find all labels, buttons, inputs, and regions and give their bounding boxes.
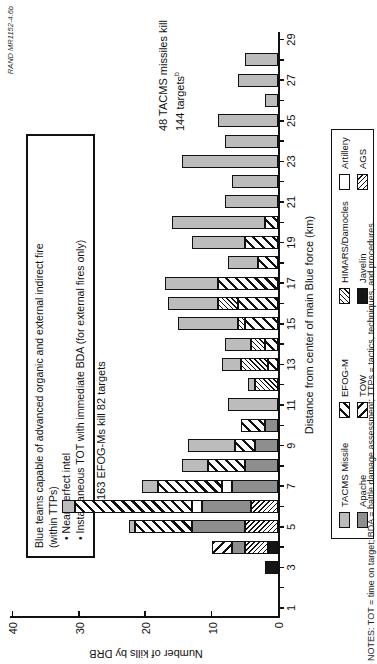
x-tick [280,242,284,244]
x-tick-label: 9 [285,435,297,457]
x-tick-label: 3 [285,556,297,578]
bar-segment-ags [245,541,268,554]
bar-segment-apache [255,439,278,452]
bar-segment-tacms [265,94,278,107]
bar-segment-apache [232,541,245,554]
bar-segment-efog [158,480,221,493]
x-tick [280,222,284,224]
x-tick-label: 11 [285,394,297,416]
legend-item-himars: HIMARS/Damocles [337,201,351,304]
bar-segment-efog [241,419,264,432]
legend-label-himars: HIMARS/Damocles [339,201,350,288]
y-axis-title: Number of kills by DRB [6,646,286,660]
bar-segment-ags [245,520,278,533]
bar-segment-himars [241,358,268,371]
bar-segment-tacms [129,520,136,533]
bar-segment-apache [245,459,278,472]
bar-segment-efog [258,256,278,269]
x-tick-label: 1 [285,597,297,619]
x-tick [280,303,284,305]
legend-label-tacms: TACMS Missile [339,443,350,512]
x-tick-label: 13 [285,353,297,375]
bar-segment-tacms [225,338,252,351]
bar-segment-tacms [192,236,245,249]
bar-segment-artillery [222,480,232,493]
notes-line: NOTES: TOT = time on target; BDA = battl… [366,1,376,661]
x-tick [280,445,284,447]
x-axis-title: Distance from center of main Blue force … [303,32,315,618]
figure-page: { "figure_id": "RAND MR1152-4.6b", "info… [0,0,377,664]
x-tick [280,526,284,528]
x-tick [280,100,284,102]
y-axis-line [10,616,280,618]
x-tick-label: 19 [285,232,297,254]
x-tick-label: 17 [285,272,297,294]
bar-segment-himars [218,297,238,310]
bar-segment-apache [202,500,252,513]
x-tick [280,384,284,386]
x-tick [280,39,284,41]
x-tick-label: 7 [285,475,297,497]
bar-segment-himars [251,338,264,351]
x-tick [280,201,284,203]
x-tick [280,546,284,548]
x-tick [280,282,284,284]
bar-segment-efog [245,317,278,330]
bar-segment-tacms [178,317,238,330]
bar-segment-tacms [225,135,278,148]
legend-item-efog: EFOG-M [337,359,351,418]
x-tick [280,465,284,467]
bar-segment-javelin [265,561,278,574]
bar-segment-tacms [238,74,278,87]
x-tick [280,587,284,589]
x-tick-label: 21 [285,191,297,213]
bar-segment-efog [245,236,278,249]
plot-area: 0102030401357911131517192123252729 [0,0,377,664]
bar-segment-efog [238,297,278,310]
bar-segment-efog [268,358,278,371]
x-tick [280,506,284,508]
x-tick-label: 25 [285,110,297,132]
bar-segment-javelin [268,541,278,554]
x-tick [280,120,284,122]
bar-segment-efog [75,500,191,513]
bar-segment-efog [135,520,191,533]
bar-segment-artillery [192,500,202,513]
y-tick [78,611,80,616]
legend-item-artillery: Artillery [337,137,351,190]
artillery-swatch [339,174,350,190]
bar-segment-ags [251,500,278,513]
bar-segment-tacms [228,256,258,269]
y-tick [211,611,213,616]
x-tick [280,485,284,487]
legend-item-tacms: TACMS Missile [337,443,351,528]
bar-segment-tacms [228,399,278,412]
bar-segment-efog [208,459,245,472]
x-tick [280,323,284,325]
y-tick [144,611,146,616]
bar-segment-tacms [222,358,242,371]
bar-segment-tow [212,541,232,554]
x-tick [280,181,284,183]
x-tick-label: 29 [285,29,297,51]
x-tick [280,161,284,163]
x-tick-label: 5 [285,516,297,538]
bar-segment-tacms [182,155,278,168]
x-tick [280,140,284,142]
bar-segment-tacms [218,114,278,127]
x-tick [280,425,284,427]
x-tick-label: 23 [285,150,297,172]
bar-segment-apache [192,520,245,533]
bar-segment-apache [265,419,278,432]
bar-segment-tacms [62,500,75,513]
bar-segment-tacms [232,175,278,188]
efog-swatch [339,402,350,418]
x-tick [280,59,284,61]
x-tick [280,364,284,366]
bar-segment-tacms [188,439,234,452]
bar-segment-efog [265,338,278,351]
bar-segment-himars [238,317,245,330]
bar-segment-tacms [245,53,278,66]
x-tick [280,607,284,609]
x-tick-label: 27 [285,69,297,91]
